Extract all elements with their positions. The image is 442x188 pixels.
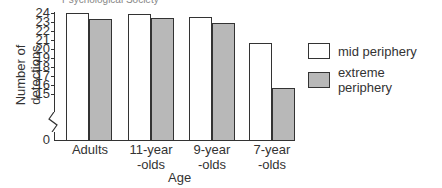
bar-9yr-mid [189, 17, 212, 140]
y-tick: 15 [36, 87, 50, 100]
legend-label: extreme periphery [338, 65, 442, 95]
y-tickmark [51, 94, 55, 95]
bar-adults-mid [66, 13, 89, 140]
y-tickmark [51, 22, 55, 23]
x-category-11yr: 11-year -olds [121, 142, 181, 172]
category-line1: Adults [60, 142, 120, 157]
legend-swatch-extreme [308, 72, 330, 88]
y-tick: 0 [43, 133, 50, 146]
bar-11yr-extreme [151, 18, 174, 140]
bar-7yr-mid [249, 43, 272, 140]
category-line2: -olds [242, 157, 302, 172]
category-line1: 9-year [182, 142, 242, 157]
bar-11yr-mid [128, 14, 151, 140]
x-axis-line [54, 140, 295, 141]
y-tickmark [51, 76, 55, 77]
y-tickmark [51, 40, 55, 41]
y-tickmark [51, 31, 55, 32]
axis-break-icon [46, 112, 60, 132]
x-category-9yr: 9-year -olds [182, 142, 242, 172]
y-axis-ticks: 24 23 22 21 20 19 18 17 16 15 0 [0, 0, 50, 188]
bar-7yr-extreme [272, 88, 295, 140]
y-tickmark [51, 85, 55, 86]
x-axis-label: Age [168, 170, 191, 185]
bar-9yr-extreme [212, 23, 235, 140]
x-category-adults: Adults [60, 142, 120, 157]
y-tickmark [51, 13, 55, 14]
y-tickmark [51, 67, 55, 68]
x-category-7yr: 7-year -olds [242, 142, 302, 172]
y-tickmark [51, 49, 55, 50]
category-line1: 7-year [242, 142, 302, 157]
source-header: Psychological Society [62, 0, 159, 5]
bar-adults-extreme [89, 19, 112, 140]
legend-label: mid periphery [338, 44, 417, 59]
y-tickmark [51, 58, 55, 59]
legend-item-mid: mid periphery [308, 43, 417, 59]
legend-swatch-mid [308, 43, 330, 59]
legend-item-extreme: extreme periphery [308, 65, 442, 95]
category-line1: 11-year [121, 142, 181, 157]
